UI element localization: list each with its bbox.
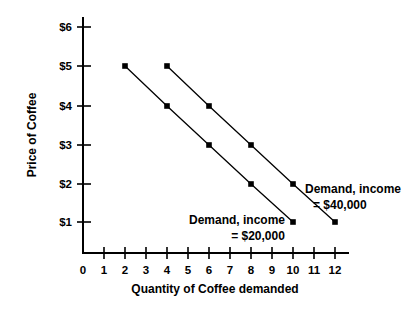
y-tick-label-4: $4: [59, 100, 72, 112]
x-tick-label-0: 0: [80, 264, 86, 276]
y-tick-label-3: $3: [59, 139, 72, 151]
series-2-marker-1: [164, 63, 170, 69]
series-demand-income-20000: [122, 63, 296, 225]
x-tick-label-2: 2: [122, 264, 128, 276]
series-demand-income-40000: [164, 63, 338, 225]
series-1-marker-5: [290, 219, 296, 225]
x-tick-label-10: 10: [287, 264, 300, 276]
annotation-demand-income-20000: Demand, income = $20,000: [189, 213, 285, 243]
y-axis-title: Price of Coffee: [25, 92, 39, 177]
series-2-marker-4: [290, 181, 296, 187]
y-axis-tick-labels: $1 $2 $3 $4 $5 $6: [59, 21, 72, 228]
demand-curve-chart: $1 $2 $3 $4 $5 $6 0 1 2 3: [0, 0, 405, 313]
series-1-marker-2: [164, 103, 170, 109]
y-tick-label-6: $6: [59, 21, 72, 33]
x-tick-label-5: 5: [185, 264, 192, 276]
x-axis-title: Quantity of Coffee demanded: [131, 282, 298, 296]
y-tick-label-5: $5: [59, 60, 72, 72]
x-tick-label-9: 9: [269, 264, 275, 276]
annotation-20000-line-2: = $20,000: [231, 229, 285, 243]
series-1-marker-3: [206, 142, 212, 148]
series-1-marker-4: [248, 181, 254, 187]
x-tick-label-3: 3: [143, 264, 149, 276]
x-tick-label-12: 12: [329, 264, 342, 276]
annotation-40000-line-1: Demand, income: [305, 182, 401, 196]
y-tick-label-2: $2: [59, 178, 72, 190]
series-2-marker-5: [332, 219, 338, 225]
series-2-marker-3: [248, 142, 254, 148]
x-tick-label-4: 4: [164, 264, 171, 276]
series-1-marker-1: [122, 63, 128, 69]
y-tick-label-1: $1: [59, 216, 72, 228]
x-axis-tick-labels: 0 1 2 3 4 5 6 7 8 9 10 11 12: [80, 264, 342, 276]
x-tick-label-8: 8: [248, 264, 255, 276]
series-2-marker-2: [206, 103, 212, 109]
x-tick-label-1: 1: [101, 264, 108, 276]
annotation-40000-line-2: = $40,000: [313, 198, 367, 212]
annotation-20000-line-1: Demand, income: [189, 213, 285, 227]
x-tick-label-11: 11: [308, 264, 321, 276]
chart-canvas: $1 $2 $3 $4 $5 $6 0 1 2 3: [0, 0, 405, 313]
x-tick-label-7: 7: [227, 264, 233, 276]
x-tick-label-6: 6: [206, 264, 212, 276]
annotation-demand-income-40000: Demand, income = $40,000: [305, 182, 401, 212]
